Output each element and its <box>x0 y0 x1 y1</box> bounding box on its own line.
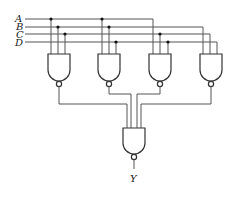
gate3-inputs <box>158 32 169 54</box>
gate2-inputs <box>100 17 117 54</box>
rail-a <box>25 19 153 54</box>
output-label-y: Y <box>130 173 138 184</box>
rail-b <box>25 27 203 54</box>
input-label-d: D <box>14 37 23 48</box>
gate-output-wires <box>59 87 211 128</box>
nand-gate-2 <box>98 54 120 87</box>
nand-gate-output <box>123 128 145 169</box>
gate1-inputs <box>49 17 66 54</box>
rail-c <box>25 34 210 54</box>
nand-gate-3 <box>149 54 171 87</box>
nand-gate-1 <box>48 54 70 87</box>
input-rails <box>25 19 217 54</box>
rail-d <box>25 42 217 54</box>
logic-circuit-diagram: A B C D <box>0 0 235 197</box>
nand-gate-4 <box>200 54 222 87</box>
